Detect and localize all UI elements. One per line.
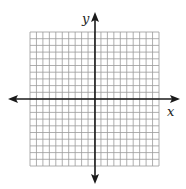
- x-axis: [8, 95, 180, 103]
- coordinate-plane: [0, 0, 186, 189]
- y-axis: [91, 12, 99, 184]
- x-axis-label: x: [167, 105, 174, 118]
- y-axis-label: y: [82, 12, 89, 25]
